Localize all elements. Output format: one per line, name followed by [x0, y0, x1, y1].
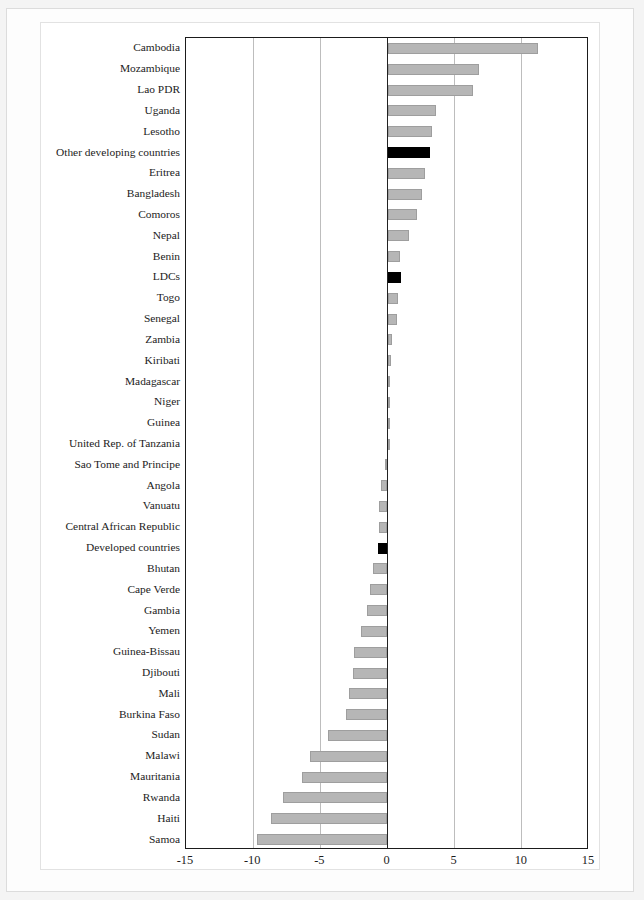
bar — [379, 522, 387, 533]
bar — [349, 688, 388, 699]
bar — [361, 626, 388, 637]
bar — [388, 314, 397, 325]
category-label: Lesotho — [0, 125, 185, 137]
category-label: Rwanda — [0, 791, 185, 803]
x-tick-label: 10 — [501, 853, 541, 867]
category-label: Central African Republic — [0, 520, 185, 532]
category-label: Cambodia — [0, 41, 185, 53]
bar — [388, 64, 479, 75]
bar — [271, 813, 388, 824]
category-label: Zambia — [0, 333, 185, 345]
category-label: Yemen — [0, 624, 185, 636]
category-label: Guinea — [0, 416, 185, 428]
plot-area — [185, 37, 588, 849]
category-label: Sudan — [0, 728, 185, 740]
bar — [388, 251, 400, 262]
category-label: Comoros — [0, 208, 185, 220]
bar — [388, 439, 390, 450]
bar — [353, 668, 388, 679]
category-label: Guinea-Bissau — [0, 645, 185, 657]
bar — [302, 772, 388, 783]
bar — [367, 605, 387, 616]
category-label: Other developing countries — [0, 146, 185, 158]
x-tick-label: -5 — [299, 853, 339, 867]
category-label: Malawi — [0, 749, 185, 761]
x-tick-label: 15 — [568, 853, 608, 867]
bar — [388, 105, 436, 116]
category-label: LDCs — [0, 270, 185, 282]
horizontal-bar-chart: CambodiaMozambiqueLao PDRUgandaLesothoOt… — [0, 0, 644, 900]
category-label: Niger — [0, 395, 185, 407]
bar — [378, 543, 387, 554]
category-label: Togo — [0, 291, 185, 303]
bar — [310, 751, 388, 762]
category-label: Mali — [0, 687, 185, 699]
category-label: Senegal — [0, 312, 185, 324]
category-label: Kiribati — [0, 354, 185, 366]
x-tick-label: -15 — [165, 853, 205, 867]
bar — [388, 293, 399, 304]
bar — [388, 209, 418, 220]
bar — [388, 376, 390, 387]
bar — [257, 834, 387, 845]
bar — [388, 43, 538, 54]
category-label: Burkina Faso — [0, 708, 185, 720]
category-label: Eritrea — [0, 166, 185, 178]
bar — [283, 792, 388, 803]
category-label: Cape Verde — [0, 583, 185, 595]
bar — [388, 189, 423, 200]
bar — [388, 85, 474, 96]
bar — [379, 501, 387, 512]
category-label: Djibouti — [0, 666, 185, 678]
category-label: Sao Tome and Principe — [0, 458, 185, 470]
bar — [328, 730, 387, 741]
bar — [388, 230, 409, 241]
x-tick-label: 5 — [434, 853, 474, 867]
bar — [373, 563, 388, 574]
figure-page: CambodiaMozambiqueLao PDRUgandaLesothoOt… — [0, 0, 644, 900]
category-label: Bhutan — [0, 562, 185, 574]
bar — [381, 480, 388, 491]
category-label: United Rep. of Tanzania — [0, 437, 185, 449]
gridline--5 — [320, 38, 321, 848]
bar — [388, 355, 391, 366]
category-label: Uganda — [0, 104, 185, 116]
category-label: Nepal — [0, 229, 185, 241]
bar — [385, 459, 388, 470]
category-label: Angola — [0, 479, 185, 491]
category-label: Samoa — [0, 833, 185, 845]
category-label: Mozambique — [0, 62, 185, 74]
bar — [388, 168, 426, 179]
bar — [388, 418, 390, 429]
bar — [346, 709, 388, 720]
x-tick-label: -10 — [232, 853, 272, 867]
x-tick-label: 0 — [367, 853, 407, 867]
bar — [388, 126, 432, 137]
category-label: Benin — [0, 250, 185, 262]
category-label: Bangladesh — [0, 187, 185, 199]
bar — [388, 272, 401, 283]
category-label: Vanuatu — [0, 499, 185, 511]
bar — [388, 397, 390, 408]
category-label: Mauritania — [0, 770, 185, 782]
gridline-5 — [454, 38, 455, 848]
category-label: Lao PDR — [0, 83, 185, 95]
gridline-10 — [521, 38, 522, 848]
bar — [388, 147, 431, 158]
bar — [388, 334, 393, 345]
category-label: Madagascar — [0, 375, 185, 387]
bar — [354, 647, 388, 658]
bar — [370, 584, 387, 595]
category-label: Haiti — [0, 812, 185, 824]
category-label: Gambia — [0, 604, 185, 616]
category-label: Developed countries — [0, 541, 185, 553]
gridline--10 — [253, 38, 254, 848]
